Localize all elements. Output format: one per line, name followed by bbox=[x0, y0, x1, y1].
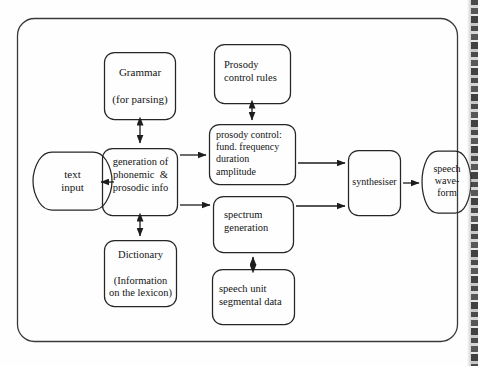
grammar-shape bbox=[105, 53, 176, 120]
diagram-graphics bbox=[0, 0, 478, 366]
spectrum-shape bbox=[214, 197, 294, 253]
scan-edge-artifact bbox=[471, 0, 478, 366]
synthesiser-shape bbox=[349, 151, 401, 216]
prosody-rules-shape bbox=[215, 45, 291, 104]
dictionary-shape bbox=[105, 241, 177, 307]
speech-unit-shape bbox=[213, 270, 295, 325]
text-input-shape bbox=[33, 152, 112, 210]
outer-frame bbox=[18, 19, 458, 342]
diagram-canvas: text input Grammar (for parsing) generat… bbox=[0, 0, 478, 366]
speech-waveform-shape bbox=[422, 151, 471, 213]
prosody-control-shape bbox=[210, 125, 296, 185]
